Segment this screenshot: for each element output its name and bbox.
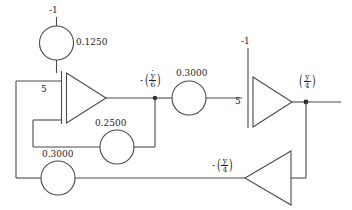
pot-0.1250-body — [40, 26, 74, 60]
label-minus-sign: - — [140, 76, 144, 85]
fraction-y-4b: y4 — [221, 157, 228, 174]
label-pot-0.3000-mid: 0.3000 — [176, 69, 208, 78]
pot-0.3000-mid-body — [172, 81, 206, 115]
paren-close-icon: ) — [157, 73, 161, 88]
label-node-ydot-over-6: -(y6) — [140, 72, 162, 89]
label-ic-top-right: -1 — [241, 37, 250, 46]
label-gain-left: 5 — [41, 85, 47, 94]
paren-open-icon: ( — [145, 73, 149, 88]
label-pot-0.2500: 0.2500 — [95, 119, 127, 128]
block-diagram-svg — [0, 0, 352, 210]
label-pot-0.1250: 0.1250 — [76, 38, 108, 47]
label-inverter-output: -(y4) — [212, 157, 234, 174]
fraction-numerator: y — [149, 72, 156, 81]
label-ic-top-left: -1 — [49, 6, 58, 15]
paren-open-icon: ( — [217, 158, 221, 173]
label-node-y-over-4: (y4) — [298, 73, 317, 90]
diagram-canvas: -1 0.1250 5 -(y6) 0.3000 -1 5 (y4) 0.250… — [0, 0, 352, 210]
pot-0.3000-bottom-body — [41, 161, 75, 195]
integrator1-triangle — [67, 73, 107, 123]
fraction-denominator: 4 — [221, 166, 228, 174]
integrator2-triangle — [253, 77, 292, 127]
label-gain-right: 5 — [235, 97, 241, 106]
fraction-ydot-6: y6 — [149, 72, 156, 89]
paren-close-icon: ) — [312, 74, 316, 89]
paren-close-icon: ) — [229, 158, 233, 173]
label-pot-0.3000-bottom: 0.3000 — [42, 150, 74, 159]
paren-open-icon: ( — [299, 74, 303, 89]
pot-0.2500-body — [100, 130, 134, 164]
fraction-y-4: y4 — [304, 73, 311, 90]
fraction-denominator: 4 — [304, 82, 311, 90]
inverter-triangle — [245, 151, 291, 205]
fraction-denominator: 6 — [149, 81, 156, 89]
label-minus-sign: - — [212, 161, 216, 170]
